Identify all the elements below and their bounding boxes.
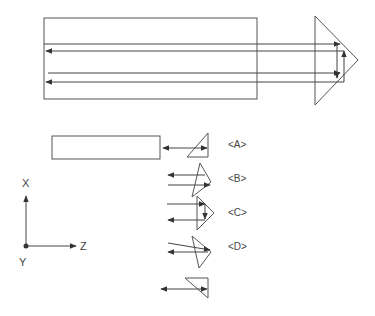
variant-unlabeled [161,278,208,298]
variant-d-label: <D> [228,241,247,252]
variant-a-prism [187,133,208,157]
y-axis-label: Y [19,256,27,268]
prism-diagram: <A> <B> <C> <D> X Z Y [0,0,375,316]
coordinate-axes: X Z Y [19,177,87,268]
variant-b: <B> [168,163,247,197]
variant-b-label: <B> [228,173,247,184]
variant-unlabeled-prism [185,278,208,298]
main-assembly [44,16,358,105]
variant-a-block [52,136,160,159]
variant-d: <D> [168,236,247,268]
variant-a-label: <A> [228,139,247,150]
z-axis-label: Z [80,240,87,252]
variant-a: <A> [52,133,247,159]
y-axis-dot-icon [24,244,29,249]
variant-b-prism [192,163,211,197]
variant-c-label: <C> [228,207,247,218]
x-axis-label: X [22,177,30,189]
variant-c: <C> [167,196,247,230]
main-block [44,18,257,99]
